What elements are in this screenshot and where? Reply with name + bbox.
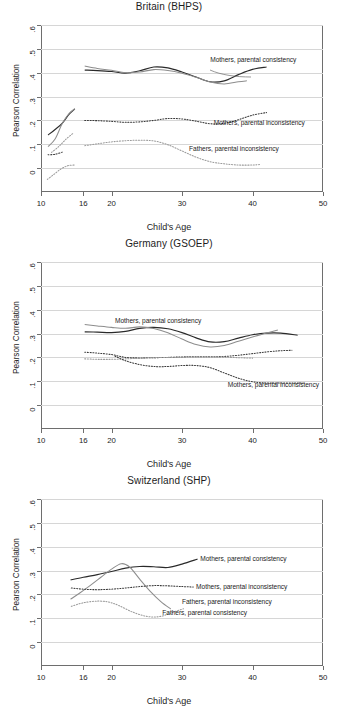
y-tick-label: .3 bbox=[28, 330, 37, 346]
chart-panel-britain: Britain (BHPS) Pearson Correlation 0.1.2… bbox=[0, 0, 338, 237]
series-line bbox=[115, 356, 303, 383]
series-line bbox=[85, 357, 253, 359]
series-line bbox=[85, 327, 298, 342]
series-annotation-label: Fathers, parental inconsistency bbox=[189, 145, 279, 152]
y-tick-label: .3 bbox=[28, 567, 37, 583]
x-tick-label: 20 bbox=[107, 436, 116, 445]
x-tick-mark bbox=[323, 666, 324, 670]
y-tick: 0 bbox=[18, 642, 38, 643]
x-tick-mark bbox=[182, 192, 183, 196]
x-tick-label: 10 bbox=[37, 673, 46, 682]
series-curves bbox=[41, 25, 323, 192]
y-tick: .4 bbox=[18, 547, 38, 548]
y-tick-label: .4 bbox=[28, 306, 37, 322]
x-tick-label: 50 bbox=[319, 673, 328, 682]
x-tick-mark bbox=[253, 192, 254, 196]
x-tick-label: 16 bbox=[79, 436, 88, 445]
y-tick: .2 bbox=[18, 120, 38, 121]
y-tick-label: 0 bbox=[28, 165, 37, 181]
x-tick-mark bbox=[253, 666, 254, 670]
y-tick: .5 bbox=[18, 49, 38, 50]
y-axis-label: Pearson Correlation bbox=[12, 283, 21, 393]
y-tick-label: .3 bbox=[28, 93, 37, 109]
y-tick-label: .1 bbox=[28, 378, 37, 394]
x-tick-mark bbox=[41, 666, 42, 670]
x-tick-mark bbox=[182, 429, 183, 433]
y-tick: .6 bbox=[18, 262, 38, 263]
x-tick-mark bbox=[41, 192, 42, 196]
y-tick: .1 bbox=[18, 381, 38, 382]
series-annotation-label: Fathers, parental consistency bbox=[162, 609, 247, 616]
panel-title: Switzerland (SHP) bbox=[0, 475, 338, 486]
series-line bbox=[48, 152, 62, 155]
x-axis-label: Child's Age bbox=[0, 222, 338, 232]
x-tick-label: 50 bbox=[319, 436, 328, 445]
x-tick-label: 50 bbox=[319, 199, 328, 208]
y-tick-label: .5 bbox=[28, 519, 37, 535]
y-tick-label: .6 bbox=[28, 496, 37, 512]
y-tick-label: .5 bbox=[28, 282, 37, 298]
x-tick-mark bbox=[112, 666, 113, 670]
x-tick-label: 20 bbox=[107, 673, 116, 682]
series-line bbox=[85, 67, 267, 82]
x-tick-label: 20 bbox=[107, 199, 116, 208]
y-axis-label: Pearson Correlation bbox=[12, 520, 21, 630]
x-tick-mark bbox=[83, 429, 84, 433]
x-tick-mark bbox=[41, 429, 42, 433]
panel-title: Germany (GSOEP) bbox=[0, 238, 338, 249]
x-tick-mark bbox=[112, 429, 113, 433]
y-tick: .4 bbox=[18, 73, 38, 74]
figure-root: Britain (BHPS) Pearson Correlation 0.1.2… bbox=[0, 0, 338, 711]
series-line bbox=[71, 559, 198, 580]
x-tick-mark bbox=[253, 429, 254, 433]
x-tick-label: 16 bbox=[79, 199, 88, 208]
y-tick: 0 bbox=[18, 168, 38, 169]
x-tick-mark bbox=[182, 666, 183, 670]
y-tick-label: .2 bbox=[28, 117, 37, 133]
y-tick: .4 bbox=[18, 310, 38, 311]
plot-area: 0.1.2.3.4.5.6 101620304050 Mothers, pare… bbox=[41, 262, 323, 429]
y-tick-label: .6 bbox=[28, 22, 37, 38]
series-line bbox=[48, 109, 75, 147]
y-axis-label: Pearson Correlation bbox=[12, 46, 21, 156]
y-tick: .2 bbox=[18, 357, 38, 358]
y-tick-label: .6 bbox=[28, 259, 37, 275]
x-tick-label: 10 bbox=[37, 436, 46, 445]
series-annotation-label: Fathers, parental inconsistency bbox=[182, 598, 272, 605]
y-tick-label: .4 bbox=[28, 543, 37, 559]
x-tick-label: 30 bbox=[178, 199, 187, 208]
y-tick: .5 bbox=[18, 523, 38, 524]
x-tick-mark bbox=[323, 192, 324, 196]
x-tick-mark bbox=[83, 666, 84, 670]
x-axis-label: Child's Age bbox=[0, 459, 338, 469]
series-line bbox=[52, 133, 74, 152]
chart-panel-switzerland: Switzerland (SHP) Pearson Correlation 0.… bbox=[0, 474, 338, 711]
x-axis-label: Child's Age bbox=[0, 696, 338, 706]
y-tick-label: .2 bbox=[28, 591, 37, 607]
x-tick-mark bbox=[323, 429, 324, 433]
series-annotation-label: Mothers, parental inconsistency bbox=[228, 381, 319, 388]
series-line bbox=[48, 109, 75, 135]
y-tick-label: .5 bbox=[28, 45, 37, 61]
annotation-leader-line bbox=[210, 70, 251, 77]
y-tick: .1 bbox=[18, 144, 38, 145]
series-annotation-label: Mothers, parental consistency bbox=[115, 317, 201, 324]
plot-area: 0.1.2.3.4.5.6 101620304050 Mothers, pare… bbox=[41, 25, 323, 192]
x-tick-label: 16 bbox=[79, 673, 88, 682]
y-tick-label: 0 bbox=[28, 639, 37, 655]
x-tick-mark bbox=[112, 192, 113, 196]
series-annotation-label: Mothers, parental consistency bbox=[200, 555, 286, 562]
plot-area: 0.1.2.3.4.5.6 101620304050 Mothers, pare… bbox=[41, 499, 323, 666]
y-tick: .5 bbox=[18, 286, 38, 287]
series-curves bbox=[41, 262, 323, 429]
series-annotation-label: Mothers, parental inconsistency bbox=[214, 119, 305, 126]
series-annotation-label: Mothers, parental inconsistency bbox=[196, 583, 287, 590]
panel-title: Britain (BHPS) bbox=[0, 1, 338, 12]
y-tick-label: .1 bbox=[28, 141, 37, 157]
y-tick: .1 bbox=[18, 618, 38, 619]
x-tick-label: 10 bbox=[37, 199, 46, 208]
y-tick-label: 0 bbox=[28, 402, 37, 418]
x-tick-mark bbox=[83, 192, 84, 196]
x-tick-label: 30 bbox=[178, 436, 187, 445]
x-tick-label: 40 bbox=[248, 436, 257, 445]
